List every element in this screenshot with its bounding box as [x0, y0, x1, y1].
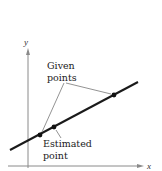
given-point-2 [112, 93, 117, 98]
y-axis-label: y [23, 37, 28, 47]
given-points-leaders [42, 83, 111, 132]
estimated-point-label-line1: Estimated [43, 138, 92, 149]
x-axis-arrow-icon [137, 164, 144, 168]
estimated-point-label-line2: point [43, 150, 68, 161]
estimated-point-label: Estimated point [43, 138, 92, 161]
given-point-1 [38, 133, 43, 138]
interpolation-diagram: y x Given points Estimated point [0, 0, 162, 171]
given-points-label-line1: Given [47, 60, 75, 71]
y-axis-arrow-icon [26, 48, 30, 55]
y-axis: y [23, 37, 30, 168]
x-axis-label: x [146, 161, 151, 171]
estimated-point-leader [56, 130, 61, 138]
given-points-label: Given points [47, 60, 77, 83]
x-axis: x [8, 161, 151, 171]
estimated-point [52, 125, 57, 130]
given-points-label-line2: points [47, 72, 77, 83]
